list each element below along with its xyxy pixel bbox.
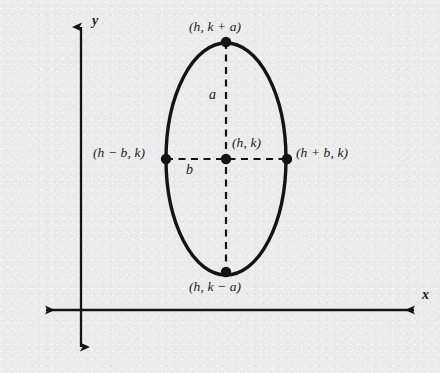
ellipse-figure: (h, k + a) (h, k − a) (h − b, k) (h + b,… bbox=[0, 0, 440, 373]
label-left-covertex: (h − b, k) bbox=[93, 146, 145, 160]
label-semi-minor-b: b bbox=[186, 163, 193, 177]
point-right-covertex bbox=[282, 154, 292, 164]
point-top-vertex bbox=[221, 37, 231, 47]
point-bottom-vertex bbox=[221, 267, 231, 277]
label-top-vertex: (h, k + a) bbox=[189, 20, 241, 34]
label-bottom-vertex: (h, k − a) bbox=[189, 280, 241, 294]
point-left-covertex bbox=[161, 154, 171, 164]
label-semi-major-a: a bbox=[209, 88, 216, 102]
axis-group bbox=[46, 27, 414, 347]
ellipse-diagram-canvas bbox=[0, 0, 440, 373]
point-center bbox=[221, 154, 231, 164]
label-right-covertex: (h + b, k) bbox=[296, 146, 348, 160]
label-x-axis: x bbox=[422, 288, 429, 302]
label-y-axis: y bbox=[92, 14, 98, 28]
label-center: (h, k) bbox=[232, 136, 261, 150]
